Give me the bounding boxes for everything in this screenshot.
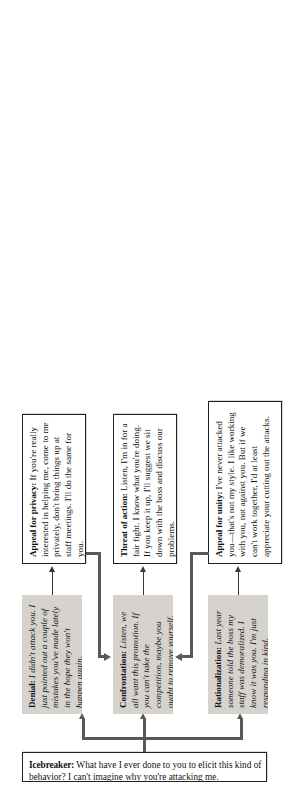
connector-rationalization-to-appeal-unity	[238, 571, 240, 595]
flowchart-canvas: Icebreaker: What have I ever done to you…	[0, 0, 289, 804]
connector-icebreaker-to-rationalization	[240, 718, 243, 740]
connector-icebreaker-to-denial	[82, 718, 85, 740]
arrowhead-confrontation-to-threat-action	[140, 566, 146, 572]
node-appeal-privacy-label: Appeal for privacy:	[28, 483, 38, 557]
arrowhead-rationalization-to-appeal-unity	[235, 566, 241, 572]
node-appeal-privacy[interactable]: Appeal for privacy: If you're really int…	[22, 414, 86, 564]
node-threat-action-label: Threat of action:	[119, 493, 129, 557]
connector-icebreaker-stub	[143, 738, 146, 752]
connector-confrontation-to-threat-action	[143, 571, 145, 595]
node-rationalization[interactable]: Rationalization: Last year someone told …	[208, 595, 268, 714]
connector-icebreaker-spine	[82, 737, 242, 740]
node-icebreaker-label: Icebreaker:	[29, 760, 74, 770]
node-appeal-unity-label: Appeal for unity:	[214, 492, 224, 557]
arrowhead-denial-to-appeal-privacy	[49, 566, 55, 572]
node-denial[interactable]: Denial: I didn't attack you. I just poin…	[22, 595, 82, 714]
connector-icebreaker-to-confrontation	[143, 718, 146, 740]
connector-appeal-unity-feedback-h	[190, 553, 193, 658]
connector-denial-to-appeal-privacy	[52, 571, 54, 595]
arrowhead-appeal-privacy-to-confrontation	[104, 653, 111, 661]
node-confrontation-label: Confrontation:	[118, 651, 128, 708]
node-rationalization-label: Rationalization:	[213, 647, 223, 708]
connector-appeal-privacy-feedback-h	[98, 553, 101, 658]
node-appeal-unity[interactable]: Appeal for unity: I've never attacked yo…	[208, 401, 282, 564]
arrowhead-appeal-unity-to-confrontation	[175, 653, 182, 661]
node-threat-action[interactable]: Threat of action: Listen, I'm in for a f…	[113, 414, 177, 564]
diagram-rotation-frame: Icebreaker: What have I ever done to you…	[0, 0, 289, 804]
node-confrontation[interactable]: Confrontation: Listen, we all want this …	[113, 595, 173, 714]
node-icebreaker[interactable]: Icebreaker: What have I ever done to you…	[22, 752, 267, 782]
connector-appeal-unity-feedback-rise	[181, 655, 191, 658]
node-denial-label: Denial:	[27, 680, 37, 708]
